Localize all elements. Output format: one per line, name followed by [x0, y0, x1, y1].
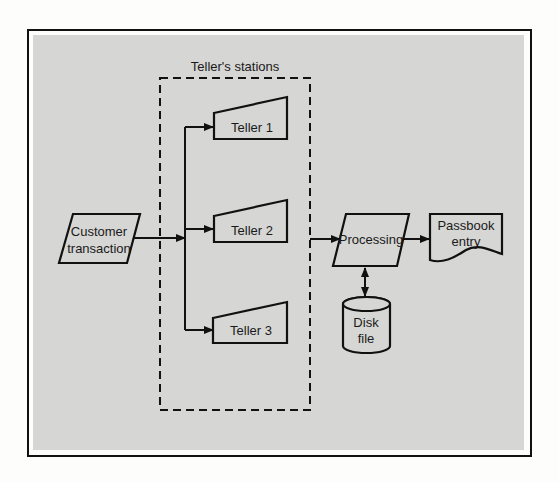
node-disk-file[interactable]: Disk file — [343, 297, 390, 353]
disk-label-line1: Disk — [353, 315, 379, 330]
teller-2-label: Teller 2 — [231, 223, 273, 238]
passbook-label-line1: Passbook — [437, 218, 495, 233]
teller-3-label: Teller 3 — [230, 323, 272, 338]
customer-label-line1: Customer — [71, 224, 128, 239]
disk-label-line2: file — [358, 331, 375, 346]
processing-label: Processing — [339, 232, 403, 247]
node-processing[interactable]: Processing — [333, 214, 409, 266]
teller-1-label: Teller 1 — [231, 120, 273, 135]
node-customer-transaction[interactable]: Customer transaction — [59, 214, 140, 263]
teller-flow-diagram: Teller's stations Customer transaction T… — [0, 0, 559, 482]
customer-label-line2: transaction — [67, 241, 131, 256]
tellers-group-label: Teller's stations — [191, 59, 280, 74]
passbook-label-line2: entry — [452, 234, 481, 249]
cylinder-top-shape — [343, 297, 390, 311]
